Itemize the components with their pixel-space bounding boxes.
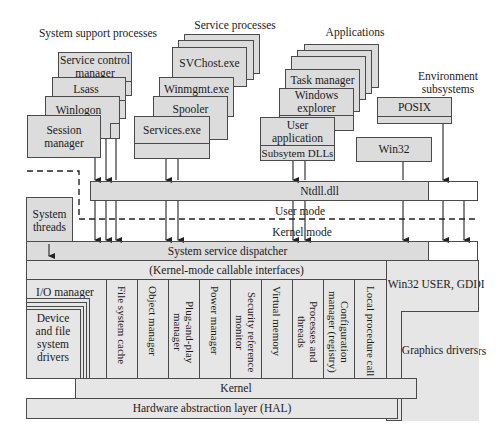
exec-virtual-memory[interactable]: Virtual memory: [261, 279, 293, 379]
process-services-exe[interactable]: Services.exe: [134, 116, 210, 159]
exec-security-reference-monitor[interactable]: Security reference monitor: [230, 279, 262, 379]
caption-environment-subsystems: Environment subsystems: [398, 70, 498, 96]
graphics-drivers-text: Graphics drivers: [401, 344, 479, 357]
system-service-dispatcher[interactable]: System service dispatcher: [26, 241, 429, 261]
exec-processes-and-threads[interactable]: Processes and threads: [292, 279, 324, 379]
kernel-mode-label: Kernel mode: [267, 226, 337, 239]
stack-edge: [110, 123, 119, 138]
exec-power-manager[interactable]: Power manager: [199, 279, 231, 379]
subsystem-win32[interactable]: Win32: [356, 137, 432, 162]
app-user-application[interactable]: User application Subsytem DLLs: [260, 117, 335, 161]
caption-service-processes: Service processes: [180, 19, 290, 32]
exec-local-procedure-call[interactable]: Local procedure call: [354, 279, 387, 379]
subsystem-dlls: Subsytem DLLs: [261, 145, 334, 160]
exec-plug-and-play-manager[interactable]: Plug-and-play manager: [168, 279, 200, 379]
kernel-callable-interfaces: (Kernel-mode callable interfaces): [26, 260, 387, 280]
hal-layer[interactable]: Hardware abstraction layer (HAL): [26, 398, 398, 419]
process-session-manager[interactable]: Session manager: [27, 115, 101, 158]
exec-configuration-manager[interactable]: Configuration manager (registry): [323, 279, 355, 379]
device-drivers-box[interactable]: Device and file system drivers: [26, 309, 81, 380]
win32-user-gdi-text: Win32 USER, GDI: [386, 278, 479, 291]
user-mode-label: User mode: [270, 205, 330, 218]
box-strip: [135, 143, 209, 158]
caption-system-support-processes: System support processes: [38, 27, 158, 40]
exec-object-manager[interactable]: Object manager: [137, 279, 169, 379]
graphics-drivers-box[interactable]: [401, 311, 479, 421]
box-strip: [378, 116, 451, 123]
system-threads[interactable]: System threads: [26, 197, 73, 244]
exec-file-system-cache[interactable]: File system cache: [106, 279, 138, 379]
ntdll-layer[interactable]: Ntdll.dll: [90, 181, 429, 201]
caption-applications: Applications: [305, 26, 405, 39]
kernel-layer[interactable]: Kernel: [75, 378, 417, 399]
subsystem-posix[interactable]: POSIX: [377, 97, 452, 124]
